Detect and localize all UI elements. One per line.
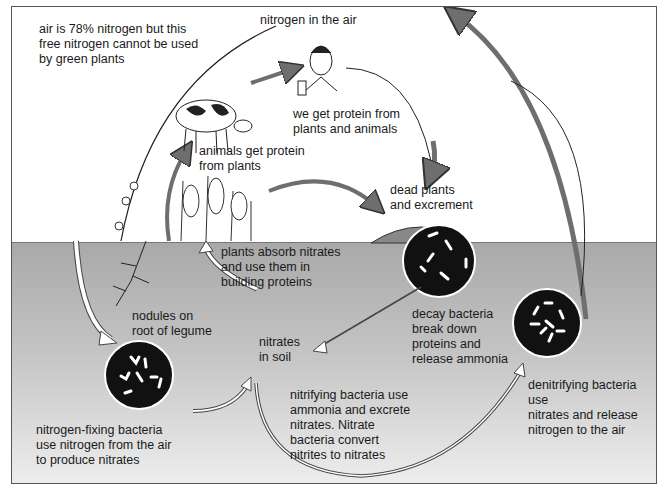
denitrifying-bacteria-disc: [513, 289, 581, 357]
label-animals: animals get protein from plants: [199, 144, 305, 174]
label-dead-matter: dead plants and excrement: [390, 183, 473, 213]
human-illustration: [298, 46, 337, 95]
label-plants-absorb: plants absorb nitrates and use them in b…: [221, 245, 341, 290]
decay-bacteria-disc: [403, 225, 475, 297]
crop-plants: [115, 176, 251, 241]
label-humans: we get protein from plants and animals: [293, 107, 400, 137]
label-nitrates-in-soil: nitrates in soil: [259, 335, 300, 365]
label-air-note: air is 78% nitrogen but this free nitrog…: [39, 22, 198, 67]
legume-roots: [113, 241, 149, 306]
title-nitrogen-in-air: nitrogen in the air: [260, 13, 357, 28]
plants-to-dead-arrow: [269, 181, 376, 206]
cow-to-human-arrow: [251, 69, 293, 83]
denitrify-to-air-arrow: [456, 15, 586, 319]
label-denitrifying-bacteria: denitrifying bacteria use nitrates and r…: [528, 378, 656, 438]
nitrogen-cycle-diagram: nitrogen in the air air is 78% nitrogen …: [11, 6, 657, 484]
label-nitrifying-bacteria: nitrifying bacteria use ammonia and excr…: [290, 388, 410, 463]
label-decay-bacteria: decay bacteria break down proteins and r…: [412, 307, 508, 367]
arrow-head: [99, 331, 117, 345]
label-nitrogen-fixing-bacteria: nitrogen-fixing bacteria use nitrogen fr…: [36, 423, 172, 468]
nitrogen-fixing-bacteria-disc: [105, 341, 173, 409]
human-to-dead-arrow: [431, 141, 435, 176]
label-nodules: nodules on root of legume: [132, 309, 212, 339]
